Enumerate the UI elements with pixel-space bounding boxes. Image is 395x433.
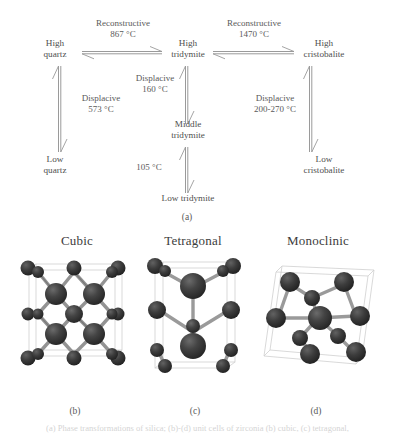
node-low-cristobalite: Low cristobalite: [280, 154, 368, 175]
node-high-cristobalite: High cristobalite: [282, 38, 366, 59]
node-low-quartz: Low quartz: [26, 154, 84, 175]
caption-d: (d): [286, 406, 346, 416]
structure-title-cubic: Cubic: [18, 233, 136, 249]
node-low-tridymite: Low tridymite: [143, 193, 233, 204]
unit-cell-monoclinic: [256, 256, 384, 378]
figure-bottom-caption-text: (a) Phase transformations of silica; (b)…: [0, 424, 395, 433]
figure-root: .ln{stroke:#9a9a9a;stroke-width:1;fill:n…: [0, 0, 395, 433]
caption-b: (b): [45, 406, 105, 416]
label-displacive-200-270-temp: 200-270 °C: [237, 104, 313, 115]
label-displacive-573-type: Displacive: [64, 93, 138, 104]
arrow-middle-low-tridymite: [180, 147, 195, 193]
label-displacive-160-temp: 160 °C: [123, 84, 187, 95]
structure-title-tetragonal: Tetragonal: [133, 233, 253, 249]
crystal-structures-panel: Cubic Tetragonal Monoclinic: [0, 228, 395, 433]
label-displacive-160-type: Displacive: [123, 73, 187, 84]
caption-c: (c): [165, 406, 225, 416]
unit-cell-tetragonal: [143, 254, 247, 382]
unit-cell-cubic: [14, 254, 136, 379]
label-reconstructive-1470-temp: 1470 °C: [213, 29, 295, 40]
node-high-tridymite: High tridymite: [152, 38, 224, 59]
node-high-quartz: High quartz: [26, 38, 84, 59]
label-reconstructive-867-type: Reconstructive: [82, 18, 164, 29]
label-displacive-200-270-type: Displacive: [237, 93, 313, 104]
node-middle-tridymite: Middle tridymite: [150, 119, 226, 140]
label-reconstructive-867-temp: 867 °C: [82, 29, 164, 40]
arrow-quartz-tridymite: [82, 47, 162, 59]
figure-bottom-caption: (a) Phase transformations of silica; (b)…: [0, 424, 395, 433]
caption-a: (a): [157, 212, 217, 222]
label-displacive-573-temp: 573 °C: [64, 104, 138, 115]
structure-title-monoclinic: Monoclinic: [255, 233, 381, 249]
label-105-temp: 105 °C: [121, 162, 177, 173]
phase-transformation-diagram: .ln{stroke:#9a9a9a;stroke-width:1;fill:n…: [0, 0, 395, 230]
label-reconstructive-1470-type: Reconstructive: [213, 18, 295, 29]
